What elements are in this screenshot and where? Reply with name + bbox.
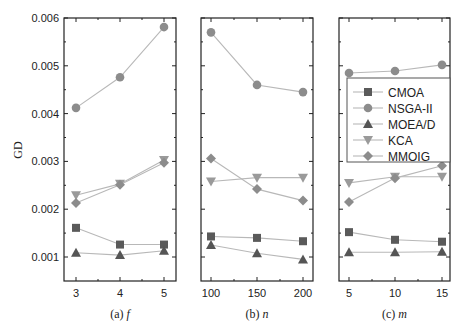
nsga-ii-marker-icon — [253, 81, 262, 90]
legend-label: MMOIG — [388, 150, 430, 164]
x-tick-label: 5 — [346, 287, 352, 299]
cmoa-marker-icon — [299, 237, 307, 245]
series-nsga-ii — [207, 28, 308, 96]
x-tick-label: 10 — [389, 287, 401, 299]
y-tick-label: 0.001 — [31, 251, 59, 263]
legend-nsga-ii-marker-icon — [364, 104, 373, 113]
gd-chart: 3450.0010.0020.0030.0040.0050.006GD(a) f… — [0, 0, 466, 331]
nsga-ii-marker-icon — [391, 67, 400, 76]
cmoa-marker-icon — [116, 241, 124, 249]
y-tick-label: 0.003 — [31, 155, 59, 167]
series-nsga-ii — [72, 23, 169, 112]
y-tick-label: 0.005 — [31, 60, 59, 72]
y-tick-label: 0.002 — [31, 203, 59, 215]
y-axis-label: GD — [11, 141, 25, 159]
x-tick-label: 100 — [202, 287, 220, 299]
series-moea-d — [206, 240, 308, 263]
y-tick-label: 0.006 — [31, 12, 59, 24]
cmoa-marker-icon — [207, 232, 215, 240]
panel-caption: (c) m — [382, 307, 407, 321]
kca-marker-icon — [206, 177, 216, 186]
cmoa-marker-icon — [72, 224, 80, 232]
panel-caption: (b) n — [246, 307, 269, 321]
series-cmoa — [345, 228, 446, 246]
legend-cmoa-marker-icon — [364, 88, 372, 96]
legend-label: MOEA/D — [388, 118, 436, 132]
x-tick-label: 3 — [73, 287, 79, 299]
nsga-ii-marker-icon — [116, 73, 125, 82]
series-moea-d — [344, 247, 447, 256]
x-tick-label: 4 — [117, 287, 123, 299]
cmoa-marker-icon — [253, 234, 261, 242]
y-tick-label: 0.004 — [31, 108, 59, 120]
legend-label: KCA — [388, 134, 413, 148]
series-kca — [71, 156, 169, 200]
cmoa-marker-icon — [391, 236, 399, 244]
moea-d-marker-icon — [206, 240, 216, 249]
mmoig-marker-icon — [252, 184, 262, 194]
series-cmoa — [72, 224, 168, 249]
series-mmoig — [344, 161, 447, 207]
mmoig-marker-icon — [344, 197, 354, 207]
moea-d-marker-icon — [71, 248, 81, 257]
cmoa-marker-icon — [345, 228, 353, 236]
panel-c: 51015(c) m — [339, 18, 450, 321]
series-nsga-ii — [345, 61, 447, 78]
nsga-ii-marker-icon — [207, 28, 216, 37]
x-tick-label: 200 — [294, 287, 312, 299]
mmoig-marker-icon — [71, 198, 81, 208]
kca-marker-icon — [344, 179, 354, 188]
mmoig-marker-icon — [298, 196, 308, 206]
cmoa-marker-icon — [438, 238, 446, 246]
x-tick-label: 150 — [248, 287, 266, 299]
mmoig-marker-icon — [206, 154, 216, 164]
x-tick-label: 15 — [436, 287, 448, 299]
panel-b: 100150200(b) n — [201, 18, 313, 321]
panel-a: 3450.0010.0020.0030.0040.0050.006GD(a) f — [11, 12, 176, 321]
nsga-ii-marker-icon — [72, 104, 81, 113]
x-tick-label: 5 — [161, 287, 167, 299]
nsga-ii-marker-icon — [299, 88, 308, 97]
legend: CMOANSGA-IIMOEA/DKCAMMOIG — [347, 78, 450, 164]
panel-caption: (a) f — [110, 307, 131, 321]
series-cmoa — [207, 232, 307, 245]
nsga-ii-marker-icon — [345, 69, 354, 78]
mmoig-marker-icon — [159, 158, 169, 168]
nsga-ii-marker-icon — [160, 23, 169, 32]
legend-label: CMOA — [388, 86, 424, 100]
legend-label: NSGA-II — [388, 102, 433, 116]
nsga-ii-marker-icon — [438, 61, 447, 70]
